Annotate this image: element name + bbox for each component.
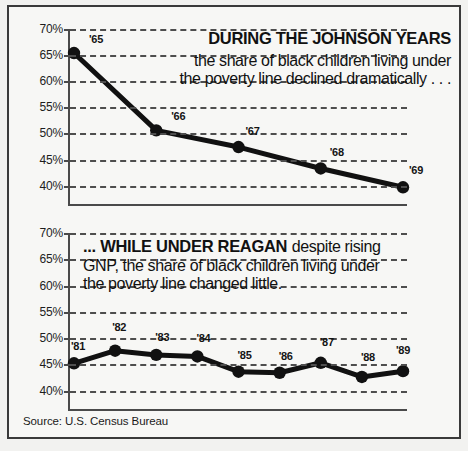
axis-tick <box>64 391 70 393</box>
data-point-year-label: '67 <box>246 125 260 137</box>
gridline <box>70 364 407 366</box>
axis-tick <box>64 186 70 188</box>
axis-tick <box>64 55 70 57</box>
axis-tick <box>64 233 70 235</box>
bodytext-top: the share of black children living under… <box>169 52 451 89</box>
source-attribution: Source: U.S. Census Bureau <box>23 415 168 427</box>
y-axis-tick-label: 50% <box>40 331 63 345</box>
callout-bottom: ... WHILE UNDER REAGAN despite rising GN… <box>83 237 403 294</box>
panel-reagan-years: 70%65%60%55%50%45%40%'81'82'83'84'85'86'… <box>9 215 463 403</box>
data-point <box>109 344 121 356</box>
y-axis-tick-label: 60% <box>40 74 63 88</box>
gridline <box>70 186 407 188</box>
data-point-year-label: '68 <box>330 146 344 158</box>
y-axis-tick-label: 60% <box>40 279 63 293</box>
data-point-year-label: '81 <box>71 340 85 352</box>
y-axis-tick-label: 70% <box>40 226 63 240</box>
axis-tick <box>64 160 70 162</box>
axis-tick <box>64 133 70 135</box>
callout-top: DURING THE JOHNSON YEARS the share of bl… <box>169 29 451 89</box>
data-point <box>191 350 203 362</box>
data-point-year-label: '85 <box>238 349 252 361</box>
gridline <box>70 160 407 162</box>
headline-top: DURING THE JOHNSON YEARS <box>208 29 451 47</box>
axis-tick <box>64 259 70 261</box>
y-axis-tick-label: 65% <box>40 48 63 62</box>
y-axis-tick-label: 55% <box>40 305 63 319</box>
data-point <box>232 366 244 378</box>
axis-tick <box>64 81 70 83</box>
y-axis-tick-label: 65% <box>40 252 63 266</box>
axis-tick <box>64 107 70 109</box>
data-point <box>68 357 80 369</box>
data-point-year-label: '82 <box>112 321 126 333</box>
data-point-year-label: '84 <box>196 332 210 344</box>
panel-johnson-years: 70%65%60%55%50%45%40%'65'66'67'68'69 DUR… <box>9 7 463 215</box>
y-axis-tick-label: 40% <box>40 179 63 193</box>
gridline <box>70 312 407 314</box>
poverty-rate-figure: 70%65%60%55%50%45%40%'65'66'67'68'69 DUR… <box>0 0 468 451</box>
data-point <box>356 371 368 383</box>
data-point <box>232 141 244 153</box>
figure-frame: 70%65%60%55%50%45%40%'65'66'67'68'69 DUR… <box>7 5 461 439</box>
y-axis-tick-label: 40% <box>40 384 63 398</box>
data-point-year-label: '65 <box>89 33 103 45</box>
data-point-year-label: '69 <box>409 164 423 176</box>
data-point <box>68 47 80 59</box>
data-point-year-label: '66 <box>171 110 185 122</box>
gridline <box>70 107 407 109</box>
y-axis-tick-label: 50% <box>40 126 63 140</box>
data-point-year-label: '83 <box>155 331 169 343</box>
data-point <box>150 349 162 361</box>
data-point <box>273 367 285 379</box>
y-axis-tick-label: 45% <box>40 153 63 167</box>
gridline <box>70 133 407 135</box>
data-point <box>315 357 327 369</box>
data-point-year-label: '89 <box>396 344 410 356</box>
gridline <box>70 233 407 235</box>
gridline <box>70 338 407 340</box>
data-point <box>397 365 409 377</box>
gridline <box>70 391 407 393</box>
axis-tick <box>64 364 70 366</box>
data-point <box>315 162 327 174</box>
axis-tick <box>64 312 70 314</box>
axis-tick <box>64 338 70 340</box>
axis-tick <box>64 286 70 288</box>
y-axis-tick-label: 55% <box>40 100 63 114</box>
data-point-year-label: '87 <box>320 336 334 348</box>
data-point-year-label: '88 <box>361 351 375 363</box>
axis-tick <box>64 29 70 31</box>
headline-bottom: ... WHILE UNDER REAGAN <box>83 237 287 255</box>
data-point-year-label: '86 <box>279 350 293 362</box>
y-axis-tick-label: 45% <box>40 357 63 371</box>
y-axis-tick-label: 70% <box>40 22 63 36</box>
